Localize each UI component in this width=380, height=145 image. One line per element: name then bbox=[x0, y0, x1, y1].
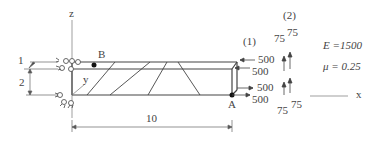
y-axis-label: y bbox=[83, 74, 89, 85]
load-500-2: 500 bbox=[252, 66, 269, 77]
y-axis bbox=[72, 84, 85, 95]
beam-diagram bbox=[0, 0, 380, 145]
poisson-ratio: μ = 0.25 bbox=[323, 61, 361, 72]
x-axis-label: x bbox=[356, 89, 362, 100]
load-500-1: 500 bbox=[258, 54, 275, 65]
length-label: 10 bbox=[146, 113, 157, 124]
thickness-label: 1 bbox=[18, 55, 24, 66]
load-500-3: 500 bbox=[257, 82, 274, 93]
height-dimension bbox=[26, 69, 58, 95]
load-500-4: 500 bbox=[252, 94, 269, 105]
load-75-3: 75 bbox=[277, 105, 288, 116]
case1-label: (1) bbox=[243, 36, 256, 47]
height-label: 2 bbox=[19, 77, 25, 88]
point-A-label: A bbox=[228, 99, 236, 110]
roller-supports bbox=[55, 58, 81, 108]
load-75-2: 75 bbox=[287, 27, 298, 38]
beam bbox=[72, 62, 237, 95]
case2-load-arrows bbox=[282, 52, 292, 95]
load-75-4: 75 bbox=[291, 99, 302, 110]
load-75-1: 75 bbox=[274, 33, 285, 44]
point-B-marker bbox=[92, 63, 97, 68]
mesh-lines bbox=[87, 62, 200, 95]
z-axis-label: z bbox=[69, 8, 74, 19]
case2-label: (2) bbox=[283, 10, 296, 21]
thickness-dimension bbox=[24, 62, 58, 69]
point-B-label: B bbox=[98, 49, 105, 60]
elastic-modulus: E =1500 bbox=[323, 40, 362, 51]
